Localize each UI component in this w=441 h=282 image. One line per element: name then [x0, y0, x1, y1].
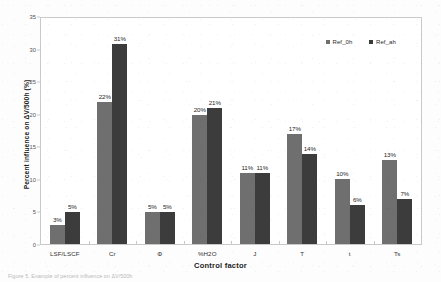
bar-value-label: 14% — [304, 145, 316, 152]
bar-pair: 22%31% — [97, 18, 127, 244]
bar-value-label: 13% — [384, 151, 396, 158]
bar-ref-ah[interactable]: 5% — [65, 212, 80, 244]
bar-ref-0h[interactable]: 17% — [287, 134, 302, 244]
bar-value-label: 5% — [148, 203, 157, 210]
bar-pair: 3%5% — [50, 18, 80, 244]
x-axis-title: Control factor — [0, 261, 441, 270]
bar-ref-ah[interactable]: 11% — [255, 173, 270, 244]
bar-value-label: 5% — [163, 203, 172, 210]
bar-ref-ah[interactable]: 21% — [207, 108, 222, 244]
x-axis-tick-label: J — [253, 250, 256, 257]
legend-label: Ref_ah — [376, 39, 396, 45]
bar-ref-0h[interactable]: 3% — [50, 225, 65, 244]
x-axis-tick-label: T — [300, 250, 304, 257]
bar-value-label: 20% — [194, 106, 206, 113]
bar-ref-0h[interactable]: 22% — [97, 102, 112, 244]
bar-pair: 17%14% — [287, 18, 317, 244]
bar-ref-ah[interactable]: 7% — [397, 199, 412, 244]
legend-item[interactable]: Ref_0h — [326, 39, 352, 45]
bar-ref-ah[interactable]: 31% — [112, 44, 127, 244]
y-axis-tick-label: 35 — [15, 14, 36, 20]
bar-group: 3%5%LSF/LSCF — [41, 18, 89, 244]
bar-ref-0h[interactable]: 13% — [382, 160, 397, 244]
bar-value-label: 5% — [68, 203, 77, 210]
bar-group: 11%11%J — [231, 18, 279, 244]
legend-label: Ref_0h — [333, 39, 353, 45]
bar-value-label: 10% — [336, 170, 348, 177]
bar-value-label: 17% — [289, 125, 301, 132]
figure-caption: Figure 5. Example of percent influence o… — [8, 273, 433, 279]
x-axis-tick-label: Φ — [157, 250, 162, 257]
bar-value-label: 7% — [400, 190, 409, 197]
x-axis-tick-label: t — [349, 250, 351, 257]
bar-value-label: 31% — [114, 35, 126, 42]
x-axis-tick-label: Cr — [109, 250, 116, 257]
bar-ref-ah[interactable]: 5% — [160, 212, 175, 244]
bar-pair: 20%21% — [192, 18, 222, 244]
y-axis-tick-label: 0 — [15, 242, 36, 248]
bar-value-label: 22% — [99, 93, 111, 100]
legend-swatch-icon — [326, 40, 330, 44]
x-axis-tick-label: %H2O — [198, 250, 217, 257]
x-axis-tick-label: Ts — [394, 250, 400, 257]
bar-ref-ah[interactable]: 14% — [302, 154, 317, 244]
legend-swatch-icon — [369, 40, 373, 44]
bar-ref-0h[interactable]: 10% — [335, 179, 350, 244]
bar-group: 17%14%T — [279, 18, 327, 244]
bar-group: 5%5%Φ — [136, 18, 184, 244]
bar-value-label: 6% — [353, 196, 362, 203]
bar-pair: 5%5% — [145, 18, 175, 244]
bar-group: 10%6%t — [326, 18, 374, 244]
bar-pair: 11%11% — [240, 18, 270, 244]
y-axis-tick-label: 30 — [15, 47, 36, 53]
bar-ref-0h[interactable]: 11% — [240, 173, 255, 244]
bar-pair: 10%6% — [335, 18, 365, 244]
bar-value-label: 11% — [241, 164, 253, 171]
legend-item[interactable]: Ref_ah — [369, 39, 395, 45]
x-axis-tick-label: LSF/LSCF — [50, 250, 80, 257]
figure-container: 05101520253035 Percent influence on ΔV/5… — [0, 0, 441, 282]
bar-group: 13%7%Ts — [374, 18, 422, 244]
bar-value-label: 21% — [209, 99, 221, 106]
bar-value-label: 3% — [53, 216, 62, 223]
bar-ref-0h[interactable]: 20% — [192, 115, 207, 244]
bar-ref-ah[interactable]: 6% — [350, 205, 365, 244]
bar-groups: 3%5%LSF/LSCF22%31%Cr5%5%Φ20%21%%H2O11%11… — [41, 18, 421, 244]
bar-group: 20%21%%H2O — [184, 18, 232, 244]
bar-pair: 13%7% — [382, 18, 412, 244]
bar-group: 22%31%Cr — [89, 18, 137, 244]
chart-legend: Ref_0hRef_ah — [326, 39, 396, 45]
bar-value-label: 11% — [256, 164, 268, 171]
y-axis-title: Percent influence on ΔV/500h (%) — [23, 55, 30, 215]
bar-ref-0h[interactable]: 5% — [145, 212, 160, 244]
